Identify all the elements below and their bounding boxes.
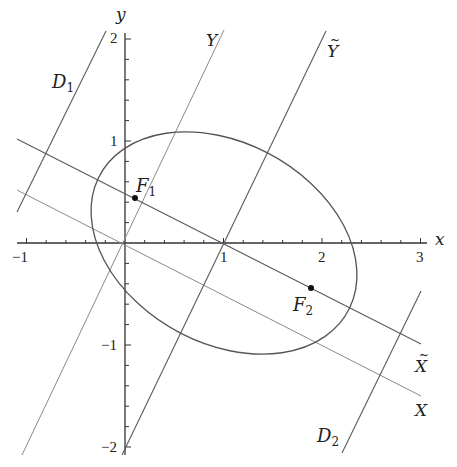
x-tick-label-2: 2 [318, 249, 326, 265]
x-axis-ticks [27, 238, 421, 243]
x-tick-label-3: 3 [416, 249, 424, 265]
line-X-label: X [413, 400, 428, 420]
diagram-canvas: −1 1 2 3 2 1 −1 −2 x y F1 F2 D1 D2 [0, 0, 457, 467]
focus-F2-point [308, 285, 314, 291]
directrix-D2-label: D2 [316, 425, 339, 449]
y-axis-label: y [115, 4, 126, 24]
y-tick-label-2: 2 [110, 30, 118, 46]
line-Y-tilde-accent: ~ [330, 33, 340, 47]
y-tick-label-neg1: −1 [101, 337, 117, 353]
line-X [17, 190, 421, 396]
directrix-D2 [342, 291, 421, 453]
focus-F2-label: F2 [292, 294, 313, 318]
line-X-tilde-accent: ~ [419, 348, 429, 362]
line-Y-tilde-label: Y ~ [327, 33, 340, 61]
line-X-tilde [17, 139, 421, 344]
line-Y-label: Y [206, 30, 219, 50]
x-tick-label-neg1: −1 [12, 249, 28, 265]
conic-diagram: −1 1 2 3 2 1 −1 −2 x y F1 F2 D1 D2 [0, 0, 457, 467]
x-tick-label-1: 1 [220, 249, 228, 265]
line-X-tilde-label: X ~ [413, 348, 429, 376]
y-tick-label-neg2: −2 [101, 439, 117, 455]
y-tick-label-1: 1 [110, 133, 118, 149]
coordinate-axes [17, 33, 427, 455]
x-axis-label: x [435, 229, 445, 249]
directrix-D1-label: D1 [51, 71, 74, 95]
directrix-D1 [17, 31, 106, 212]
